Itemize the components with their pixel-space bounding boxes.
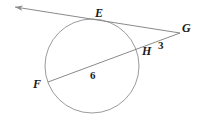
- segment-length-fh: 6: [90, 70, 96, 81]
- point-label-h: H: [142, 45, 151, 57]
- geometry-figure: E G H F 3 6: [0, 0, 202, 121]
- point-label-e: E: [95, 7, 103, 19]
- point-label-g: G: [182, 22, 191, 34]
- point-label-f: F: [33, 78, 41, 90]
- segment-length-hg: 3: [158, 40, 164, 51]
